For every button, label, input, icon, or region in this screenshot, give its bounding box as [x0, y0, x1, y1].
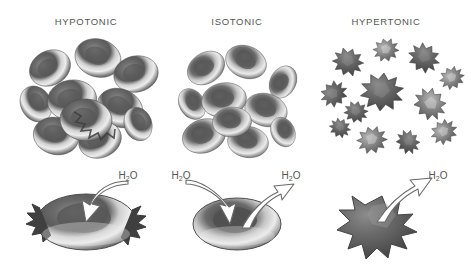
water-o: O [183, 170, 191, 181]
water-label-isotonic-in: H2O [172, 170, 191, 182]
single-cell-hypertonic [337, 196, 417, 259]
cell-cluster-hypertonic [316, 36, 468, 158]
water-o: O [293, 170, 301, 181]
water-label-isotonic-out: H2O [282, 170, 301, 182]
water-o: O [130, 170, 138, 181]
single-cell-isotonic [193, 198, 281, 250]
cell-illustrations [0, 0, 471, 265]
osmosis-figure: HYPOTONIC ISOTONIC HYPERTONIC [0, 0, 471, 265]
water-o: O [440, 170, 448, 181]
cell-cluster-hypotonic [14, 33, 162, 165]
water-label-hypotonic: H2O [119, 170, 138, 182]
water-label-hypertonic: H2O [429, 170, 448, 182]
cell-cluster-isotonic [173, 39, 303, 160]
